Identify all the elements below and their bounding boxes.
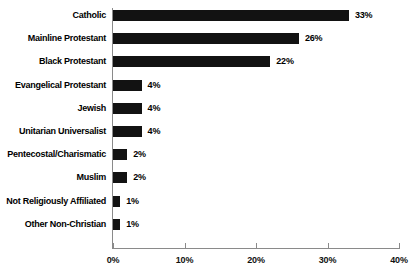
x-axis-tick-label: 40% bbox=[390, 255, 407, 265]
category-label: Catholic bbox=[0, 10, 106, 21]
bar bbox=[113, 33, 299, 44]
bar bbox=[113, 80, 142, 91]
bar bbox=[113, 56, 270, 67]
category-label: Evangelical Protestant bbox=[0, 80, 106, 91]
bar-row: Not Religiously Affiliated1% bbox=[0, 196, 412, 219]
category-label: Mainline Protestant bbox=[0, 33, 106, 44]
x-axis-tick-label: 0% bbox=[107, 255, 120, 265]
x-axis-tick bbox=[185, 243, 186, 249]
bar-row: Jewish4% bbox=[0, 103, 412, 126]
bar-value-label: 2% bbox=[133, 149, 146, 160]
bar-value-label: 1% bbox=[126, 196, 139, 207]
bar-row: Evangelical Protestant4% bbox=[0, 80, 412, 103]
category-label: Other Non-Christian bbox=[0, 219, 106, 230]
bar bbox=[113, 103, 142, 114]
bar bbox=[113, 172, 127, 183]
bar-value-label: 4% bbox=[148, 103, 161, 114]
category-label: Unitarian Universalist bbox=[0, 126, 106, 137]
x-axis-tick bbox=[328, 243, 329, 249]
bar-row: Pentecostal/Charismatic2% bbox=[0, 149, 412, 172]
bar-row: Mainline Protestant26% bbox=[0, 33, 412, 56]
category-label: Not Religiously Affiliated bbox=[0, 196, 106, 207]
bar-value-label: 4% bbox=[148, 80, 161, 91]
x-axis-tick-label: 10% bbox=[176, 255, 193, 265]
bar-value-label: 1% bbox=[126, 219, 139, 230]
category-label: Muslim bbox=[0, 172, 106, 183]
bar bbox=[113, 196, 120, 207]
bar-row: Unitarian Universalist4% bbox=[0, 126, 412, 149]
x-axis-tick-label: 30% bbox=[319, 255, 336, 265]
bar-value-label: 33% bbox=[355, 10, 372, 21]
bar bbox=[113, 10, 349, 21]
bar-value-label: 26% bbox=[305, 33, 322, 44]
bar bbox=[113, 219, 120, 230]
bar-chart: Catholic33%Mainline Protestant26%Black P… bbox=[0, 0, 412, 280]
bar-row: Black Protestant22% bbox=[0, 56, 412, 79]
bar bbox=[113, 126, 142, 137]
bar-value-label: 4% bbox=[148, 126, 161, 137]
category-label: Pentecostal/Charismatic bbox=[0, 149, 106, 160]
x-axis-tick bbox=[256, 243, 257, 249]
bar-value-label: 22% bbox=[276, 56, 293, 67]
bar-row: Muslim2% bbox=[0, 172, 412, 195]
category-label: Black Protestant bbox=[0, 56, 106, 67]
x-axis-tick bbox=[113, 243, 114, 249]
bar bbox=[113, 149, 127, 160]
plot-area: Catholic33%Mainline Protestant26%Black P… bbox=[0, 0, 412, 280]
bar-row: Catholic33% bbox=[0, 10, 412, 33]
category-label: Jewish bbox=[0, 103, 106, 114]
bar-row: Other Non-Christian1% bbox=[0, 219, 412, 242]
x-axis-tick-label: 20% bbox=[247, 255, 264, 265]
bar-value-label: 2% bbox=[133, 172, 146, 183]
x-axis-tick bbox=[399, 243, 400, 249]
